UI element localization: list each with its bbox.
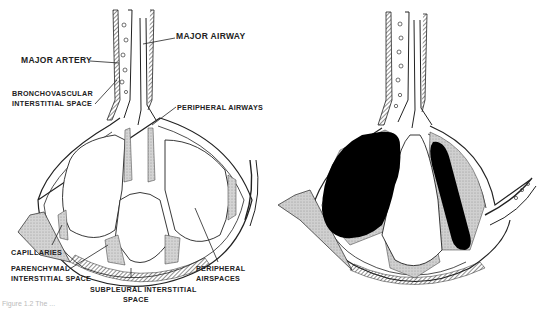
label-peripheral-airways: PERIPHERAL AIRWAYS	[177, 103, 263, 112]
label-major-airway: MAJOR AIRWAY	[176, 32, 245, 41]
label-major-artery: MAJOR ARTERY	[21, 56, 92, 65]
diagram-panel-normal: MAJOR AIRWAY MAJOR ARTERY BRONCHOVASCULA…	[0, 0, 275, 311]
label-peripheral-airspaces-line1: PERIPHERAL	[196, 264, 245, 273]
label-parenchymal-line2: INTERSTITIAL SPACE	[11, 274, 91, 283]
figure-caption-partial: Figure 1.2 The ...	[2, 300, 55, 307]
label-capillaries: CAPILLARIES	[11, 248, 62, 257]
label-subpleural-line2: SPACE	[123, 295, 149, 304]
label-bronchovascular-line2: INTERSTITIAL SPACE	[12, 99, 92, 108]
label-parenchymal-line1: PARENCHYMAL	[11, 264, 70, 273]
lung-lobule-consolidation-illustration	[270, 0, 546, 311]
label-peripheral-airspaces-line2: AIRSPACES	[196, 274, 240, 283]
diagram-panel-consolidated	[270, 0, 546, 311]
label-subpleural-line1: SUBPLEURAL INTERSTITIAL	[90, 285, 197, 294]
label-bronchovascular-line1: BRONCHOVASCULAR	[12, 89, 93, 98]
